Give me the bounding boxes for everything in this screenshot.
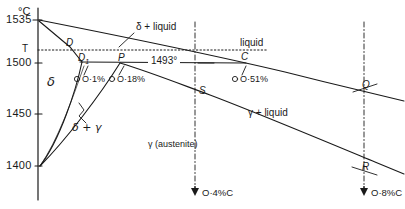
- point-label-P: P: [118, 53, 125, 63]
- phase-diagram-figure: °C 1535 T 1500 1450 1400 D D1 P C S Q R …: [0, 0, 405, 209]
- point-label-D1-subscript: 1: [85, 58, 89, 65]
- composition-label-0-1: O·1%: [82, 75, 105, 84]
- region-label-delta: δ: [47, 75, 55, 88]
- liquidus-curve: [39, 20, 404, 101]
- c-pct-marker: [232, 76, 237, 81]
- delta-liquid-leader-line: [119, 33, 134, 47]
- bottom-label-0-8-carbon: O·8%C: [371, 188, 402, 198]
- region-label-gamma-liquid: γ + liquid: [248, 108, 288, 118]
- axis-tick-T: T: [22, 44, 28, 54]
- point-label-D1: D1: [78, 53, 89, 65]
- composition-label-0-51: O·51%: [240, 75, 268, 84]
- region-label-gamma-austenite: γ (austenite): [148, 140, 198, 149]
- point-label-D: D: [66, 38, 73, 48]
- bottom-label-0-4-carbon: O·4%C: [202, 188, 233, 198]
- point-label-C: C: [241, 52, 248, 62]
- region-label-delta-gamma: δ + γ: [72, 122, 101, 133]
- axis-tick-1450: 1450: [6, 108, 32, 119]
- axis-tick-1535: 1535: [6, 14, 32, 25]
- point-label-Q: Q: [362, 80, 370, 90]
- axis-tick-1400: 1400: [6, 160, 32, 171]
- axis-tick-1500: 1500: [6, 57, 32, 68]
- point-label-R: R: [362, 162, 369, 172]
- region-label-delta-liquid: δ + liquid: [136, 22, 176, 32]
- composition-label-0-18: O·18%: [117, 75, 145, 84]
- region-label-liquid: liquid: [240, 38, 263, 48]
- diagram-canvas: [0, 0, 405, 209]
- point-label-S: S: [199, 86, 206, 96]
- peritectic-temperature-label: 1493°: [148, 56, 180, 66]
